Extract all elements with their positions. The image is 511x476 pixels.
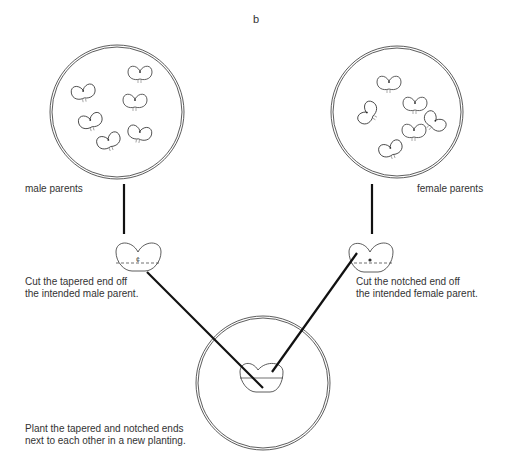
male-instruction-line-1: Cut the tapered end off [25,276,127,288]
female-parents-label: female parents [417,183,483,195]
female-instruction-line-1: Cut the notched end off [356,276,460,288]
male-parents-circle [50,45,184,179]
new-planting-circle [196,316,330,450]
male-cut-bulb: ¢ [116,243,161,271]
male-to-planting-line [147,272,263,388]
planting-instruction-line-1: Plant the tapered and notched ends [25,423,183,435]
svg-text:¢: ¢ [136,256,140,263]
male-instruction-line-2: the intended male parent. [25,288,138,300]
male-parents-label: male parents [25,183,83,195]
female-to-planting-line [272,253,357,372]
planting-instruction-line-2: next to each other in a new planting. [25,435,186,447]
female-instruction-line-2: the intended female parent. [356,288,478,300]
female-cut-bulb [349,243,393,272]
diagram-canvas: ¢ [0,0,511,476]
female-parents-circle [331,46,463,178]
panel-letter: b [253,13,259,25]
